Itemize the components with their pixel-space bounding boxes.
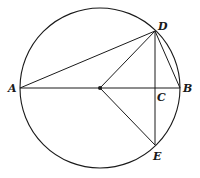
- segment-OE: [100, 88, 155, 145]
- label-C: C: [157, 91, 166, 104]
- label-A: A: [7, 82, 17, 95]
- label-B: B: [182, 82, 192, 95]
- center-point: [98, 86, 102, 90]
- segment-AD: [20, 31, 155, 88]
- label-D: D: [157, 20, 168, 33]
- label-E: E: [152, 150, 162, 163]
- geometry-diagram: A B C D E: [0, 0, 200, 178]
- segment-OD: [100, 31, 155, 88]
- segment-DB: [155, 31, 180, 88]
